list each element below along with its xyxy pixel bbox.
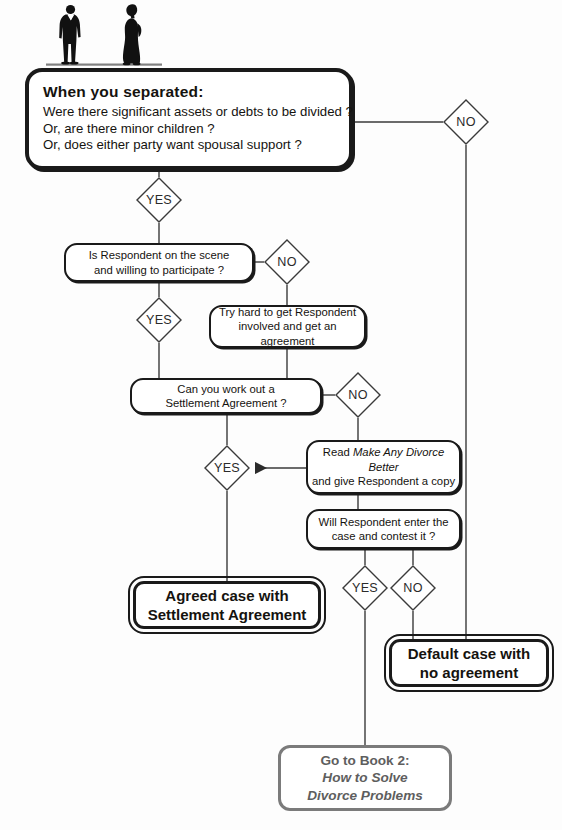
decision-separated-no[interactable]: NO xyxy=(443,99,489,145)
node-can-you-work-out-settlement[interactable]: Can you work out a Settlement Agreement … xyxy=(130,378,322,414)
read-book-line-2: and give Respondent a copy xyxy=(312,474,455,489)
decision-label: NO xyxy=(403,581,422,595)
book2-line-1: Go to Book 2: xyxy=(320,752,409,770)
separated-line-3: Or, does either party want spousal suppo… xyxy=(43,137,302,154)
node-will-respondent-contest[interactable]: Will Respondent enter the case and conte… xyxy=(306,509,461,549)
decision-label: NO xyxy=(277,255,296,269)
decision-contest-no[interactable]: NO xyxy=(390,565,436,611)
read-book-title: Make Any Divorce Better xyxy=(353,446,444,473)
decision-label: NO xyxy=(456,115,475,129)
book2-line-3: Divorce Problems xyxy=(307,787,423,805)
decision-scene-yes[interactable]: YES xyxy=(136,297,182,343)
default-case-line-2: no agreement xyxy=(420,663,518,682)
respondent-scene-line-2: and willing to participate ? xyxy=(94,263,224,278)
agreed-case-line-2: Settlement Agreement xyxy=(148,605,307,624)
decision-label: YES xyxy=(146,193,172,207)
decision-label: NO xyxy=(348,388,367,402)
decision-workout-yes[interactable]: YES xyxy=(204,445,250,491)
decision-scene-no[interactable]: NO xyxy=(264,239,310,285)
try-hard-line-1: Try hard to get Respondent xyxy=(219,305,356,320)
decision-label: YES xyxy=(352,581,378,595)
terminal-agreed-case[interactable]: Agreed case with Settlement Agreement xyxy=(133,581,321,629)
agreed-case-line-1: Agreed case with xyxy=(165,586,288,605)
work-out-line-2: Settlement Agreement ? xyxy=(165,396,286,411)
will-contest-line-2: case and contest it ? xyxy=(332,529,436,544)
book2-line-2: How to Solve xyxy=(322,769,407,787)
node-read-make-any-divorce-better[interactable]: Read Make Any Divorce Better and give Re… xyxy=(306,440,461,494)
respondent-scene-line-1: Is Respondent on the scene xyxy=(89,248,230,263)
will-contest-line-1: Will Respondent enter the xyxy=(319,515,449,530)
flowchart-canvas: When you separated: Were there significa… xyxy=(0,0,562,830)
node-is-respondent-on-scene[interactable]: Is Respondent on the scene and willing t… xyxy=(64,243,254,282)
work-out-line-1: Can you work out a xyxy=(177,382,274,397)
separated-line-1: Were there significant assets or debts t… xyxy=(43,104,353,121)
terminal-default-case[interactable]: Default case with no agreement xyxy=(389,639,549,687)
decision-separated-yes[interactable]: YES xyxy=(136,177,182,223)
read-book-prefix: Read xyxy=(323,446,353,458)
decision-label: YES xyxy=(146,313,172,327)
node-when-you-separated[interactable]: When you separated: Were there significa… xyxy=(25,68,353,170)
default-case-line-1: Default case with xyxy=(408,644,531,663)
separated-line-2: Or, are there minor children ? xyxy=(43,121,215,138)
two-person-silhouette-icon xyxy=(44,0,164,70)
try-hard-line-2: involved and get an agreement xyxy=(211,319,364,348)
node-try-hard-get-respondent[interactable]: Try hard to get Respondent involved and … xyxy=(209,305,366,348)
separated-title: When you separated: xyxy=(43,83,204,101)
terminal-go-to-book-2[interactable]: Go to Book 2: How to Solve Divorce Probl… xyxy=(278,745,452,811)
decision-contest-yes[interactable]: YES xyxy=(342,565,388,611)
decision-label: YES xyxy=(214,461,240,475)
read-book-line-1: Read Make Any Divorce Better xyxy=(308,445,459,474)
decision-workout-no[interactable]: NO xyxy=(335,372,381,418)
